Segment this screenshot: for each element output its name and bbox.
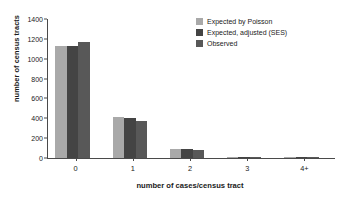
legend-item: Observed	[196, 38, 287, 48]
bar	[124, 118, 136, 159]
legend-item: Expected, adjusted (SES)	[196, 27, 287, 37]
bar	[181, 149, 193, 158]
legend-label: Expected by Poisson	[207, 18, 272, 25]
x-axis-tick-mark	[190, 158, 191, 161]
bar	[296, 157, 308, 158]
bar	[136, 121, 148, 158]
legend-swatch-icon	[196, 29, 203, 36]
y-axis-tick-mark	[44, 138, 47, 139]
bar	[78, 42, 90, 158]
bar	[250, 157, 262, 158]
plot-area: 020040060080010001200140001234+	[47, 19, 333, 158]
x-axis-tick-label: 1	[131, 164, 135, 173]
y-axis-tick-mark	[44, 98, 47, 99]
x-axis-tick-label: 2	[188, 164, 192, 173]
legend-label: Observed	[207, 40, 237, 47]
legend-label: Expected, adjusted (SES)	[207, 29, 287, 36]
legend-swatch-icon	[196, 18, 203, 25]
chart-legend: Expected by PoissonExpected, adjusted (S…	[196, 16, 287, 49]
x-axis-tick-label: 3	[245, 164, 249, 173]
y-axis-tick-mark	[44, 78, 47, 79]
bar	[67, 46, 79, 158]
bar	[284, 157, 296, 158]
legend-item: Expected by Poisson	[196, 16, 287, 26]
chart-figure: number of census tracts number of cases/…	[0, 0, 344, 201]
bar	[193, 150, 205, 158]
bar	[238, 157, 250, 158]
y-axis-tick-mark	[44, 158, 47, 159]
y-axis-tick-mark	[44, 118, 47, 119]
bar	[227, 157, 239, 158]
x-axis-line	[47, 158, 335, 159]
x-axis-tick-mark	[304, 158, 305, 161]
bar	[55, 46, 67, 158]
legend-swatch-icon	[196, 40, 203, 47]
bar	[170, 149, 182, 158]
x-axis-label: number of cases/census tract	[48, 181, 332, 190]
bar	[113, 117, 125, 158]
y-axis-tick-mark	[44, 38, 47, 39]
x-axis-tick-mark	[76, 158, 77, 161]
x-axis-tick-label: 4+	[300, 164, 308, 173]
x-axis-tick-label: 0	[74, 164, 78, 173]
x-axis-tick-mark	[133, 158, 134, 161]
y-axis-label: number of census tracts	[12, 0, 21, 119]
y-axis-tick-mark	[44, 19, 47, 20]
y-axis-tick-mark	[44, 58, 47, 59]
x-axis-tick-mark	[247, 158, 248, 161]
bar	[307, 157, 319, 158]
